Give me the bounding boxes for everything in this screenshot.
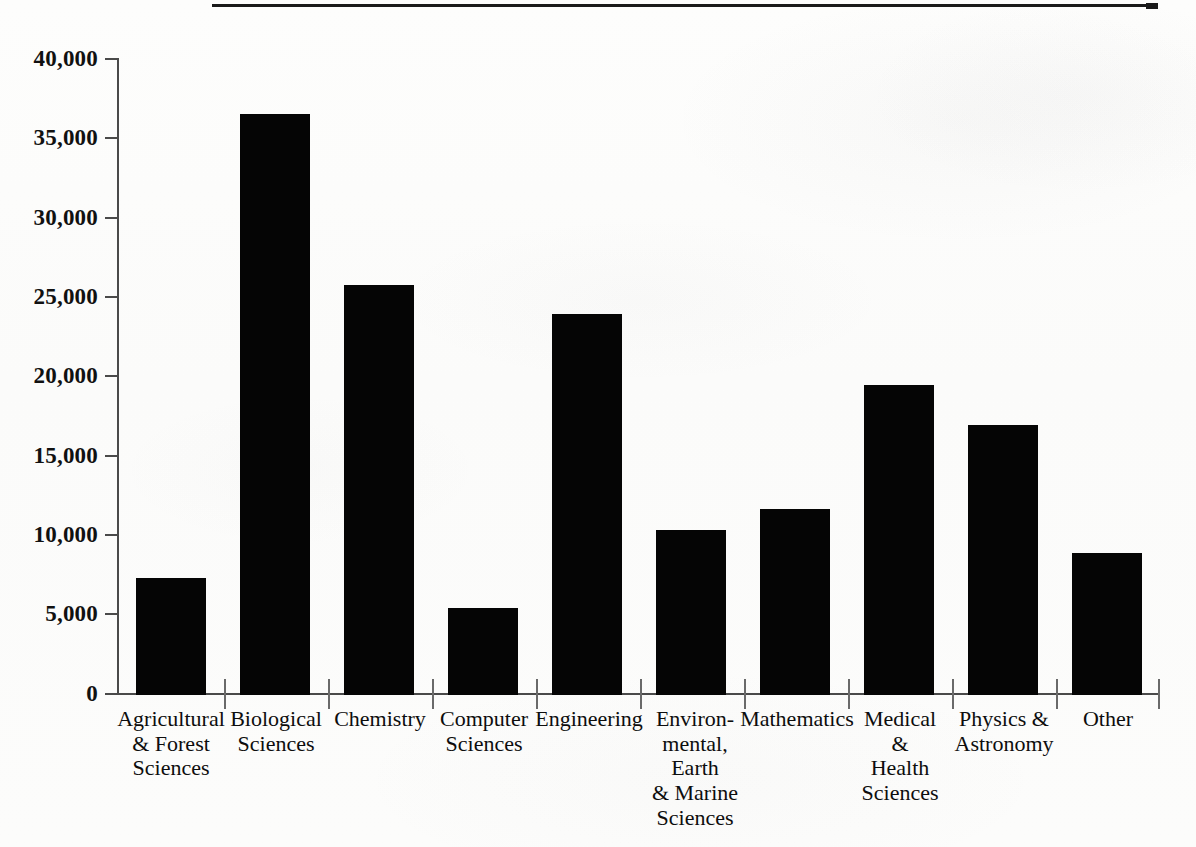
y-tick-label-35000: 35,000: [2, 126, 98, 149]
bar-chart-plot-area: 0 5,000 10,000 15,000 20,000 25,000 30,0…: [0, 0, 1196, 847]
x-tick-separator: [432, 679, 434, 709]
x-label-line: Engineering: [532, 707, 646, 732]
bar-biological-sciences: [240, 114, 310, 695]
x-label-line: Computer: [430, 707, 538, 732]
bar-medical-health-sciences: [864, 385, 934, 695]
x-label-chemistry: Chemistry: [326, 707, 434, 732]
x-label-line: mental, Earth: [640, 732, 750, 781]
y-tick-label-25000: 25,000: [2, 285, 98, 308]
x-tick-separator: [328, 679, 330, 709]
x-label-line: Chemistry: [326, 707, 434, 732]
x-tick-separator: [640, 679, 642, 709]
x-label-line: Other: [1054, 707, 1162, 732]
x-label-line: Sciences: [430, 732, 538, 757]
x-label-mathematics: Mathematics: [734, 707, 860, 732]
x-label-line: &: [846, 732, 954, 757]
bar-chemistry: [344, 285, 414, 695]
x-label-line: Sciences: [222, 732, 330, 757]
x-label-line: Sciences: [116, 756, 226, 781]
x-label-line: Biological: [222, 707, 330, 732]
x-label-line: Mathematics: [734, 707, 860, 732]
y-tick-label-30000: 30,000: [2, 206, 98, 229]
x-label-line: Medical: [846, 707, 954, 732]
x-label-computer-sciences: Computer Sciences: [430, 707, 538, 756]
y-tick-30000: [105, 217, 118, 219]
x-label-biological-sciences: Biological Sciences: [222, 707, 330, 756]
x-label-agricultural-forest-sciences: Agricultural & Forest Sciences: [116, 707, 226, 781]
x-label-line: Health: [846, 756, 954, 781]
bar-mathematics: [760, 509, 830, 695]
y-tick-label-15000: 15,000: [2, 444, 98, 467]
bar-physics-astronomy: [968, 425, 1038, 695]
x-tick-separator: [1056, 679, 1058, 709]
y-tick-5000: [105, 613, 118, 615]
y-tick-25000: [105, 296, 118, 298]
bar-engineering: [552, 314, 622, 695]
x-label-other: Other: [1054, 707, 1162, 732]
bar-agricultural-forest-sciences: [136, 578, 206, 695]
x-tick-separator: [224, 679, 226, 709]
x-label-physics-astronomy: Physics & Astronomy: [950, 707, 1058, 756]
y-tick-label-40000: 40,000: [2, 47, 98, 70]
x-tick-separator: [848, 679, 850, 709]
x-label-line: Sciences: [640, 806, 750, 831]
x-label-line: & Forest: [116, 732, 226, 757]
y-tick-10000: [105, 534, 118, 536]
x-label-line: Physics &: [950, 707, 1058, 732]
bar-computer-sciences: [448, 608, 518, 695]
x-label-line: Astronomy: [950, 732, 1058, 757]
x-tick-separator: [952, 679, 954, 709]
bar-other: [1072, 553, 1142, 695]
y-tick-20000: [105, 375, 118, 377]
y-tick-40000: [105, 58, 118, 60]
y-tick-0: [105, 693, 118, 695]
y-tick-label-0: 0: [2, 682, 98, 705]
x-label-line: & Marine: [640, 781, 750, 806]
y-tick-label-20000: 20,000: [2, 364, 98, 387]
y-tick-15000: [105, 455, 118, 457]
x-label-line: Sciences: [846, 781, 954, 806]
x-label-engineering: Engineering: [532, 707, 646, 732]
y-tick-label-10000: 10,000: [2, 523, 98, 546]
x-tick-separator: [1158, 679, 1160, 709]
x-label-medical-health-sciences: Medical & Health Sciences: [846, 707, 954, 806]
x-tick-separator: [536, 679, 538, 709]
bar-environmental-earth-marine-sciences: [656, 530, 726, 695]
y-tick-label-5000: 5,000: [2, 602, 98, 625]
x-label-line: Agricultural: [116, 707, 226, 732]
x-tick-separator: [744, 679, 746, 709]
y-tick-35000: [105, 137, 118, 139]
